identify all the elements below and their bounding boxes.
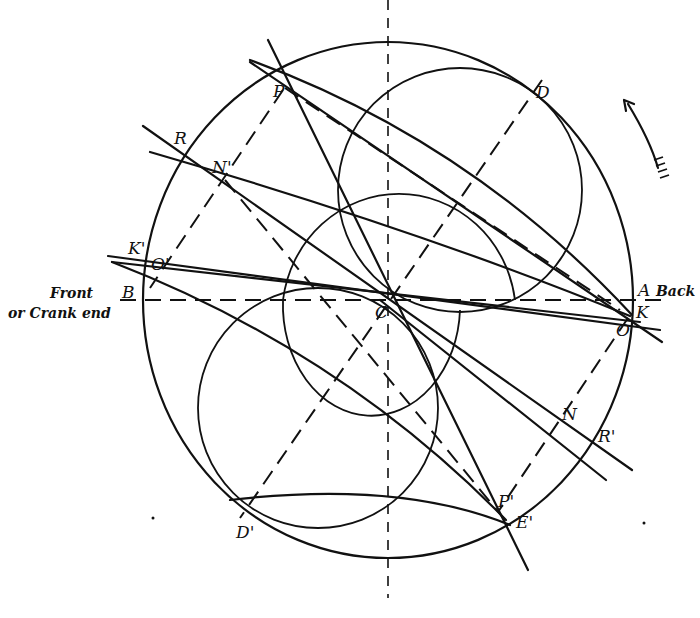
annotation-crank-end: or Crank end — [8, 305, 111, 321]
label-K: K — [635, 302, 650, 322]
crank-diagram: P D R N' K' O' B C A K O N R' P' E' D' F… — [0, 0, 700, 618]
label-P: P — [272, 81, 285, 101]
print-dot — [152, 517, 155, 520]
arc-Dprime-curve — [230, 494, 510, 525]
label-N-prime: N' — [211, 157, 232, 177]
annotation-front: Front — [49, 285, 94, 301]
label-R: R — [173, 128, 187, 148]
label-A: A — [636, 280, 650, 300]
label-K-prime: K' — [127, 238, 145, 258]
rotation-arrow-icon — [624, 100, 669, 178]
dash-P-Pprime-left — [150, 90, 283, 288]
label-O: O — [616, 320, 630, 340]
label-R-prime: R' — [597, 426, 615, 446]
label-N: N — [561, 404, 578, 424]
annotation-back: Back — [655, 283, 695, 299]
label-B: B — [121, 282, 135, 302]
label-C: C — [375, 302, 388, 322]
label-O-prime: O' — [151, 254, 170, 274]
arc-P-curve — [250, 60, 632, 315]
upper-valve-circle — [338, 68, 582, 312]
label-P-prime: P' — [497, 491, 514, 511]
label-E-prime: E' — [515, 512, 533, 532]
print-dot — [643, 522, 646, 525]
line-N-steep — [380, 300, 606, 480]
label-D-prime: D' — [235, 522, 254, 542]
label-D: D — [535, 82, 550, 102]
